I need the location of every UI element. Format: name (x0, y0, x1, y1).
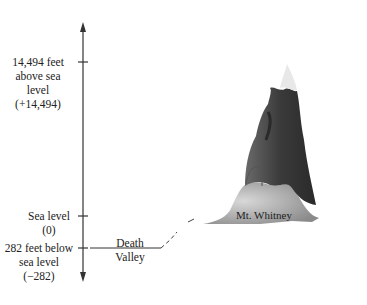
label-line: (0) (24, 223, 74, 237)
label-mt-whitney-elevation: 14,494 feet above sea level (+14,494) (2, 55, 74, 111)
label-line: 282 feet below (0, 241, 78, 255)
vertical-number-line (78, 22, 88, 282)
label-line: 14,494 feet (2, 55, 74, 69)
label-line: sea level (0, 255, 78, 269)
label-line: (+14,494) (2, 97, 74, 111)
label-line: (−282) (0, 269, 78, 283)
label-mt-whitney: Mt. Whitney (229, 208, 299, 222)
label-line: above sea (2, 69, 74, 83)
label-line: Sea level (24, 209, 74, 223)
label-line: level (2, 83, 74, 97)
label-line: Death (105, 236, 155, 250)
label-sea-level: Sea level (0) (24, 209, 74, 237)
label-line: Valley (105, 250, 155, 264)
mountain-icon (203, 64, 319, 224)
label-death-valley-elevation: 282 feet below sea level (−282) (0, 241, 78, 283)
arrow-up-icon (80, 22, 86, 32)
label-death-valley: Death Valley (105, 236, 155, 264)
arrow-down-icon (80, 272, 86, 282)
